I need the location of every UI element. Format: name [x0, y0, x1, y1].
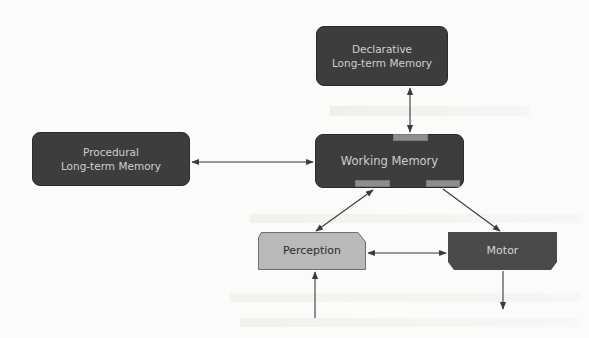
declarative-long-term-memory-node: Declarative Long-term Memory [316, 26, 448, 86]
working-memory-slot-motor [426, 180, 460, 187]
motor-label: Motor [487, 244, 519, 258]
motor-node: Motor [448, 232, 557, 270]
procedural-long-term-memory-node: Procedural Long-term Memory [32, 132, 190, 186]
working-memory-label: Working Memory [341, 154, 438, 168]
edge-working-perception [316, 190, 373, 231]
perception-label: Perception [283, 244, 341, 258]
working-memory-slot-perception [355, 180, 390, 187]
working-memory-slot-declarative [393, 134, 428, 141]
edge-working-motor [443, 189, 500, 231]
procedural-long-term-memory-label: Procedural Long-term Memory [61, 145, 161, 173]
perception-node: Perception [258, 232, 366, 270]
declarative-long-term-memory-label: Declarative Long-term Memory [332, 42, 432, 70]
